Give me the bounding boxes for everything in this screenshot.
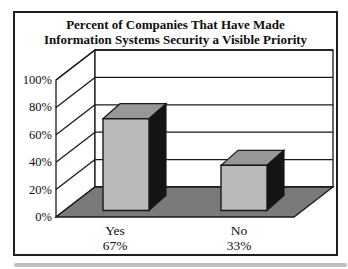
- bar-yes-front-face: [103, 119, 149, 211]
- x-axis-value-label-no: 33%: [227, 238, 252, 253]
- bar-chart-3d: 0%20%40%60%80%100%Yes67%No33%: [0, 0, 348, 269]
- x-axis-value-label-yes: 67%: [103, 238, 128, 253]
- bar-no-front-face: [221, 165, 267, 210]
- bottom-divider-bar: [14, 263, 347, 267]
- y-axis-tick-label-80: 80%: [29, 100, 52, 114]
- y-axis-tick-label-60: 60%: [29, 128, 52, 142]
- y-axis-tick-label-20: 20%: [29, 183, 52, 197]
- y-axis-tick-label-0: 0%: [35, 210, 52, 224]
- y-axis-tick-label-100: 100%: [23, 73, 52, 87]
- y-axis-tick-label-40: 40%: [29, 155, 52, 169]
- bar-yes-side-face: [149, 104, 166, 211]
- x-axis-category-label-no: No: [231, 223, 248, 238]
- x-axis-category-label-yes: Yes: [105, 223, 125, 238]
- figure-page: Percent of Companies That Have Made Info…: [0, 0, 348, 269]
- chart-floor: [56, 187, 333, 217]
